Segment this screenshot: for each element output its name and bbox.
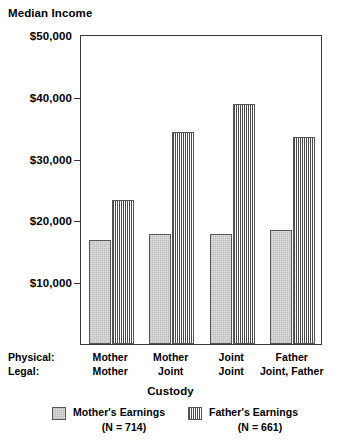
bar-father-2: [233, 104, 255, 344]
bars-layer: [81, 36, 321, 344]
x-axis-title: Custody: [0, 385, 341, 397]
axis-row-label-physical: Physical:: [8, 351, 55, 363]
y-axis-tick-label: $10,000: [30, 277, 72, 289]
x-axis-legal-label-3: Joint, Father: [250, 365, 334, 377]
x-axis-physical-label-3: Father: [250, 351, 334, 363]
y-axis-tick-label: $40,000: [30, 92, 72, 104]
bar-father-1: [172, 132, 194, 344]
y-axis-tick-label: $30,000: [30, 154, 72, 166]
legend-sublabel: (N = 714): [73, 421, 175, 433]
y-axis-tick-label: $50,000: [30, 30, 72, 42]
axis-row-label-legal: Legal:: [8, 365, 39, 377]
bar-mother-1: [149, 234, 171, 344]
bar-mother-2: [210, 234, 232, 344]
chart-legend: Mother's Earnings (N = 714) Father's Ear…: [0, 406, 341, 446]
x-axis-category-labels: Physical: Legal: MotherMotherMotherJoint…: [0, 350, 341, 382]
dark-checkered-swatch-icon: [188, 407, 202, 420]
bar-mother-3: [270, 230, 292, 344]
bar-father-3: [293, 137, 315, 344]
bar-father-0: [112, 200, 134, 344]
legend-label: Mother's Earnings: [73, 406, 165, 418]
y-axis-tick-label: $20,000: [30, 215, 72, 227]
light-dotted-swatch-icon: [52, 407, 66, 420]
plot-area: [80, 35, 322, 345]
bar-mother-0: [89, 240, 111, 344]
legend-label: Father's Earnings: [209, 406, 298, 418]
legend-sublabel: (N = 661): [209, 421, 311, 433]
median-income-bar-chart: Median Income $50,000$40,000$30,000$20,0…: [0, 0, 341, 448]
